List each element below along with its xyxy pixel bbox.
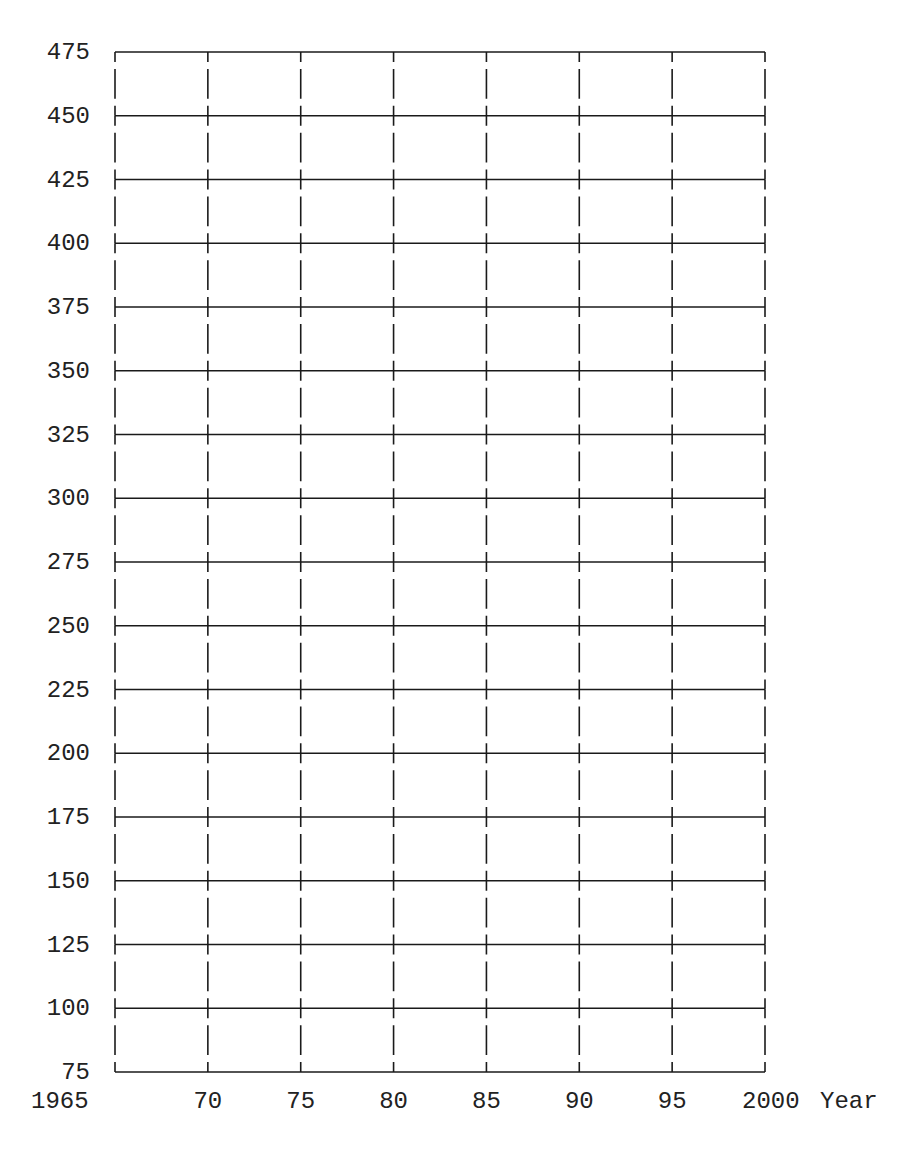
x-tick-label: 2000 xyxy=(742,1088,800,1115)
y-tick-label: 100 xyxy=(47,995,90,1022)
y-tick-label: 325 xyxy=(47,422,90,449)
y-axis-tick-labels: 7510012515017520022525027530032535037540… xyxy=(47,39,90,1086)
y-tick-label: 150 xyxy=(47,868,90,895)
y-tick-label: 250 xyxy=(47,613,90,640)
y-tick-label: 300 xyxy=(47,485,90,512)
y-tick-label: 200 xyxy=(47,740,90,767)
x-tick-label: 80 xyxy=(379,1088,408,1115)
x-tick-label: 1965 xyxy=(31,1088,89,1115)
y-tick-label: 375 xyxy=(47,294,90,321)
y-tick-label: 225 xyxy=(47,677,90,704)
chart-container: 7510012515017520022525027530032535037540… xyxy=(0,0,914,1151)
y-tick-label: 475 xyxy=(47,39,90,66)
x-axis-tick-labels: 19657075808590952000 xyxy=(31,1088,800,1115)
x-axis-title: Year xyxy=(820,1088,878,1115)
y-tick-label: 175 xyxy=(47,804,90,831)
y-tick-label: 125 xyxy=(47,932,90,959)
x-tick-label: 90 xyxy=(565,1088,594,1115)
y-tick-label: 75 xyxy=(61,1059,90,1086)
x-tick-label: 85 xyxy=(472,1088,501,1115)
x-tick-label: 75 xyxy=(286,1088,315,1115)
y-tick-label: 275 xyxy=(47,549,90,576)
x-tick-label: 95 xyxy=(658,1088,687,1115)
x-tick-label: 70 xyxy=(193,1088,222,1115)
y-tick-label: 400 xyxy=(47,230,90,257)
y-tick-label: 425 xyxy=(47,167,90,194)
y-tick-label: 450 xyxy=(47,103,90,130)
chart-plot-area: 7510012515017520022525027530032535037540… xyxy=(0,0,914,1151)
y-tick-label: 350 xyxy=(47,358,90,385)
horizontal-gridlines xyxy=(115,52,765,1072)
